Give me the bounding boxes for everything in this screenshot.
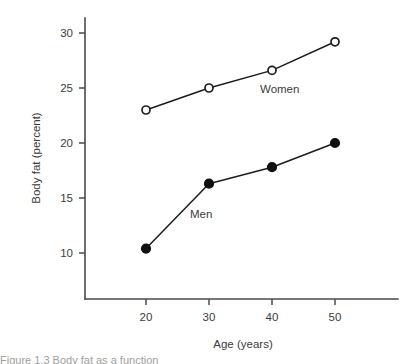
figure-body-fat-vs-age: 30 25 20 15 10 20 30 40 50 Age (years) B… bbox=[0, 0, 413, 364]
series-women-markers bbox=[142, 38, 339, 114]
y-tick-label-20: 20 bbox=[60, 137, 73, 149]
x-axis-title: Age (years) bbox=[213, 338, 273, 350]
data-point bbox=[331, 139, 340, 148]
data-point bbox=[205, 179, 214, 188]
y-tick-label-30: 30 bbox=[60, 27, 73, 39]
data-point bbox=[142, 106, 150, 114]
y-tick-label-15: 15 bbox=[60, 192, 73, 204]
data-point bbox=[142, 244, 151, 253]
data-point bbox=[205, 84, 213, 92]
figure-caption: Figure 1.3 Body fat as a function bbox=[0, 354, 413, 364]
x-axis-ticks bbox=[146, 299, 335, 305]
data-point bbox=[331, 38, 339, 46]
series-label-women: Women bbox=[260, 83, 299, 95]
series-label-men: Men bbox=[190, 208, 212, 220]
x-tick-label-50: 50 bbox=[329, 311, 342, 323]
series-women bbox=[142, 38, 339, 114]
y-axis-title: Body fat (percent) bbox=[30, 112, 42, 204]
data-point bbox=[268, 163, 277, 172]
series-men-markers bbox=[142, 139, 340, 253]
x-tick-label-40: 40 bbox=[266, 311, 279, 323]
y-tick-label-25: 25 bbox=[60, 82, 73, 94]
line-chart: 30 25 20 15 10 20 30 40 50 Age (years) B… bbox=[0, 0, 413, 364]
x-tick-label-30: 30 bbox=[203, 311, 216, 323]
y-axis-ticks bbox=[79, 33, 85, 253]
x-tick-label-20: 20 bbox=[140, 311, 153, 323]
data-point bbox=[268, 66, 276, 74]
series-women-line bbox=[146, 42, 335, 110]
series-men-line bbox=[146, 143, 335, 249]
series-men bbox=[142, 139, 340, 253]
y-tick-label-10: 10 bbox=[60, 247, 73, 259]
